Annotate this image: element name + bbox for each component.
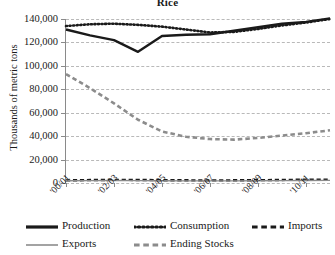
legend-item-production[interactable]: Production — [26, 216, 110, 234]
legend-swatch-imports — [252, 219, 284, 231]
y-tick-label: 100,000 — [0, 61, 58, 71]
legend-label-production: Production — [62, 219, 110, 231]
y-tick-label: 80,000 — [0, 84, 58, 94]
series-line-ending-stocks — [66, 74, 330, 140]
legend-swatch-production — [26, 219, 58, 231]
legend-label-imports: Imports — [288, 219, 322, 231]
legend-item-consumption[interactable]: Consumption — [134, 216, 229, 234]
legend-item-exports[interactable]: Exports — [26, 234, 96, 252]
y-tick-label: 140,000 — [0, 14, 58, 24]
series-group — [66, 19, 330, 183]
legend-item-ending-stocks[interactable]: Ending Stocks — [134, 234, 234, 252]
y-tick-label: 60,000 — [0, 108, 58, 118]
legend-row-2: ExportsEnding Stocks — [0, 234, 335, 252]
legend-swatch-ending-stocks — [134, 237, 166, 249]
y-tick-label: 40,000 — [0, 131, 58, 141]
legend-label-ending-stocks: Ending Stocks — [170, 237, 234, 249]
x-tick-label: '00/01 — [48, 172, 72, 196]
y-tick-label: 20,000 — [0, 155, 58, 165]
legend-swatch-consumption — [134, 219, 166, 231]
legend-swatch-exports — [26, 237, 58, 249]
series-line-consumption — [66, 19, 330, 32]
legend-item-imports[interactable]: Imports — [252, 216, 322, 234]
plot-area — [66, 19, 330, 183]
chart-legend: ProductionConsumptionImports ExportsEndi… — [0, 216, 335, 254]
chart-title: Rice — [0, 0, 335, 6]
rice-line-chart: Rice Thousands of metric tons 140,000120… — [0, 0, 335, 255]
legend-label-exports: Exports — [62, 237, 96, 249]
legend-row-1: ProductionConsumptionImports — [0, 216, 335, 234]
legend-label-consumption: Consumption — [170, 219, 229, 231]
y-tick-label: 120,000 — [0, 37, 58, 47]
